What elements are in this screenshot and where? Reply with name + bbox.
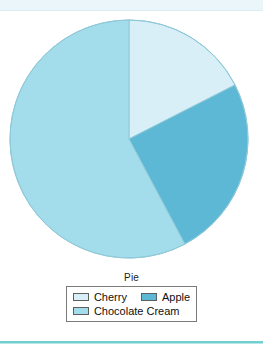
pie-chart-svg — [0, 0, 263, 270]
chart-page: Pie Cherry Apple Chocolate Cream — [0, 0, 263, 348]
legend-swatch-cherry — [73, 293, 89, 301]
legend-swatch-chocolate-cream — [73, 307, 89, 315]
bottom-rule-shadow — [0, 343, 263, 344]
chart-title: Pie — [0, 272, 263, 284]
legend-item-apple[interactable]: Apple — [141, 291, 190, 304]
legend-label-chocolate-cream: Chocolate Cream — [94, 305, 180, 318]
legend-swatch-apple — [141, 293, 157, 301]
legend-box: Cherry Apple Chocolate Cream — [66, 286, 197, 322]
pie-chart-area — [0, 0, 263, 270]
legend-row: Chocolate Cream — [73, 304, 190, 318]
legend-label-cherry: Cherry — [94, 291, 127, 304]
legend: Pie Cherry Apple Chocolate Cream — [0, 272, 263, 322]
legend-item-cherry[interactable]: Cherry — [73, 291, 127, 304]
legend-label-apple: Apple — [162, 291, 190, 304]
legend-row: Cherry Apple — [73, 290, 190, 304]
legend-item-chocolate-cream[interactable]: Chocolate Cream — [73, 305, 180, 318]
